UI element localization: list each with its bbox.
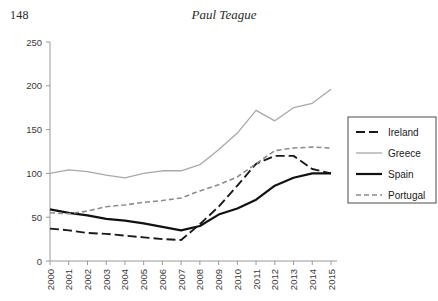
x-axis-tick-label: 2007 (176, 269, 187, 290)
y-axis-tick-label: 50 (31, 212, 42, 223)
series-line-spain (50, 173, 331, 230)
legend-label-spain[interactable]: Spain (388, 169, 414, 180)
x-axis: 2000200120022003200420052006200720082009… (45, 261, 338, 290)
x-axis-tick-label: 2010 (232, 269, 243, 290)
x-axis-tick-label: 2003 (101, 269, 112, 290)
chart-legend: IrelandGreeceSpainPortugal (348, 117, 436, 203)
x-axis-tick-label: 2015 (326, 269, 337, 290)
legend-label-portugal[interactable]: Portugal (388, 190, 425, 201)
x-axis-tick-label: 2005 (138, 269, 149, 290)
x-axis-tick-label: 2008 (194, 269, 205, 290)
x-axis-tick-label: 2004 (119, 269, 130, 290)
y-axis-tick-label: 200 (26, 80, 42, 91)
y-axis-tick-label: 150 (26, 124, 42, 135)
running-head-title: Paul Teague (0, 7, 438, 23)
x-axis-tick-label: 2002 (82, 269, 93, 290)
legend-label-ireland[interactable]: Ireland (388, 127, 419, 138)
line-chart: 050100150200250 200020012002200320042005… (0, 30, 438, 301)
x-axis-tick-label: 2000 (45, 269, 56, 290)
x-axis-tick-label: 2001 (63, 269, 74, 290)
figure-chart: 050100150200250 200020012002200320042005… (0, 30, 438, 301)
chart-series-lines (50, 89, 331, 240)
y-axis-tick-label: 100 (26, 168, 42, 179)
x-axis-tick-label: 2009 (213, 269, 224, 290)
x-axis-tick-label: 2012 (269, 269, 280, 290)
page-root: 148 Paul Teague 050100150200250 20002001… (0, 0, 438, 301)
x-axis-tick-label: 2014 (307, 269, 318, 290)
x-axis-tick-label: 2013 (288, 269, 299, 290)
legend-label-greece[interactable]: Greece (388, 148, 421, 159)
x-axis-tick-label: 2006 (157, 269, 168, 290)
x-axis-tick-label: 2011 (251, 269, 262, 289)
y-axis-tick-label: 0 (37, 256, 42, 267)
y-axis: 050100150200250 (26, 37, 50, 267)
y-axis-tick-label: 250 (26, 37, 42, 48)
series-line-greece (50, 89, 331, 177)
